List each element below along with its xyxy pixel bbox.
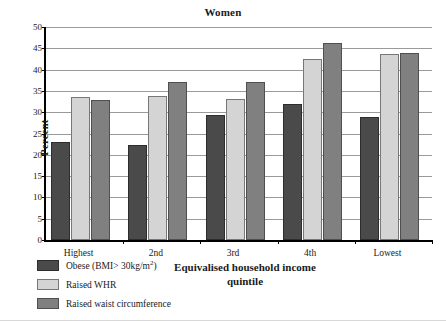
bar-group bbox=[360, 27, 419, 240]
x-category-label: Lowest bbox=[373, 248, 401, 258]
legend-swatch bbox=[37, 298, 59, 309]
legend-item: Obese (BMI> 30kg/m2) bbox=[37, 256, 287, 275]
y-tick-label: 45 bbox=[33, 44, 42, 53]
y-tick-label: 10 bbox=[33, 193, 42, 202]
bar bbox=[128, 145, 147, 240]
y-tick-mark bbox=[42, 240, 46, 241]
bar bbox=[380, 54, 399, 240]
x-tick-mark bbox=[432, 240, 433, 244]
y-tick-label: 25 bbox=[33, 129, 42, 138]
bar-series-container bbox=[46, 27, 432, 240]
legend-item: Raised WHR bbox=[37, 275, 287, 294]
y-tick-label: 20 bbox=[33, 150, 42, 159]
bar bbox=[226, 99, 245, 240]
x-tick-mark bbox=[200, 240, 201, 244]
chart-title: Women bbox=[0, 6, 446, 18]
bar bbox=[91, 100, 110, 240]
y-tick-label: 35 bbox=[33, 86, 42, 95]
bar bbox=[71, 97, 90, 240]
plot-area: Percent 05101520253035404550 bbox=[44, 27, 432, 242]
y-tick-label: 0 bbox=[38, 236, 43, 245]
chart-legend: Obese (BMI> 30kg/m2)Raised WHRRaised wai… bbox=[37, 256, 287, 313]
legend-item: Raised waist circumference bbox=[37, 294, 287, 313]
bar-group bbox=[51, 27, 110, 240]
y-tick-label: 30 bbox=[33, 108, 42, 117]
bar-group bbox=[206, 27, 265, 240]
x-tick-mark bbox=[278, 240, 279, 244]
y-tick-label: 50 bbox=[33, 23, 42, 32]
bar bbox=[206, 115, 225, 240]
bar bbox=[400, 53, 419, 240]
bar-chart-figure: Women Percent 05101520253035404550 Highe… bbox=[0, 0, 446, 321]
bar bbox=[323, 43, 342, 240]
bar-group bbox=[283, 27, 342, 240]
y-tick-label: 15 bbox=[33, 172, 42, 181]
legend-swatch bbox=[37, 279, 59, 290]
bar bbox=[246, 82, 265, 240]
bar bbox=[303, 59, 322, 240]
x-category-label: 4th bbox=[304, 248, 316, 258]
bar bbox=[148, 96, 167, 240]
bar bbox=[283, 104, 302, 240]
bar bbox=[51, 142, 70, 240]
legend-label: Raised waist circumference bbox=[66, 299, 171, 309]
x-tick-mark bbox=[123, 240, 124, 244]
legend-swatch bbox=[37, 260, 59, 271]
legend-label: Obese (BMI> 30kg/m2) bbox=[66, 259, 157, 271]
y-tick-label: 5 bbox=[38, 214, 43, 223]
bar bbox=[168, 82, 187, 240]
y-tick-label: 40 bbox=[33, 65, 42, 74]
x-tick-mark bbox=[355, 240, 356, 244]
bar-group bbox=[128, 27, 187, 240]
bar bbox=[360, 117, 379, 240]
legend-label: Raised WHR bbox=[66, 280, 116, 290]
